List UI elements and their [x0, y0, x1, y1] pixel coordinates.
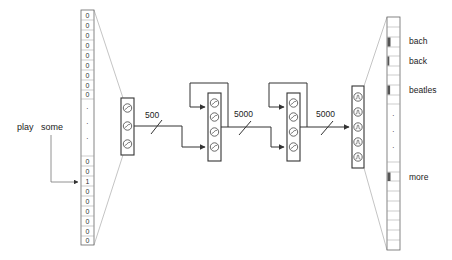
probability-marker-bach: [388, 38, 391, 47]
input-one-hot-vector: 0 0 0 0 0 0 0 0 0 · · · 0 0: [81, 10, 94, 245]
input-cell: 0: [86, 72, 90, 79]
embedding-layer: [121, 98, 134, 155]
projection-line-top: [364, 17, 387, 86]
sigmoid-unit-icon: [289, 128, 297, 136]
input-cell: 0: [86, 168, 90, 175]
probability-marker-beatles: [388, 86, 391, 95]
sigmoid-unit-icon: [289, 99, 297, 107]
sigmoid-unit-icon: [123, 104, 131, 112]
connection-size-label: 5000: [316, 109, 335, 119]
input-cell: 0: [86, 22, 90, 29]
input-cell: 0: [86, 82, 90, 89]
connection-hidden1-hidden2: 5000: [221, 109, 284, 147]
softmax-unit-icon: [354, 123, 362, 131]
input-cell: 0: [86, 228, 90, 235]
sigmoid-unit-icon: [123, 122, 131, 130]
projection-line-bottom: [364, 168, 387, 250]
sigmoid-unit-icon: [289, 143, 297, 151]
output-word-beatles: beatles: [409, 85, 436, 95]
input-ellipsis: · · ·: [86, 104, 89, 143]
hidden-layer-1: [208, 93, 221, 161]
softmax-unit-icon: [354, 153, 362, 161]
output-ellipsis: · · ·: [392, 111, 395, 152]
input-cell: 0: [86, 208, 90, 215]
svg-text:·: ·: [86, 104, 89, 113]
svg-text:·: ·: [392, 127, 395, 136]
sigmoid-unit-icon: [210, 99, 218, 107]
output-word-labels: bach back beatles more: [409, 36, 436, 182]
input-cell: 0: [86, 62, 90, 69]
query-text: play some: [17, 122, 63, 132]
input-cell: 0: [86, 42, 90, 49]
dimension-slash-icon: [151, 120, 162, 134]
sigmoid-unit-icon: [289, 113, 297, 121]
svg-text:·: ·: [86, 119, 89, 128]
input-cell: 0: [86, 188, 90, 195]
sigmoid-unit-icon: [210, 143, 218, 151]
sigmoid-unit-icon: [210, 128, 218, 136]
probability-marker-back: [388, 57, 390, 66]
softmax-unit-icon: [354, 138, 362, 146]
projection-line-bottom: [94, 155, 123, 245]
query-word-some: some: [41, 122, 63, 132]
probability-marker-more: [388, 173, 391, 182]
input-cell: 0: [86, 198, 90, 205]
output-word-more: more: [409, 172, 429, 182]
input-cell: 0: [86, 32, 90, 39]
svg-text:·: ·: [86, 134, 89, 143]
projection-line-top: [94, 10, 123, 98]
dimension-slash-icon: [321, 121, 333, 135]
connection-size-label: 5000: [234, 109, 253, 119]
query-to-input-arrow: [51, 135, 78, 182]
svg-text:·: ·: [392, 143, 395, 152]
output-word-back: back: [409, 56, 428, 66]
input-cell-active: 1: [86, 178, 90, 185]
dimension-slash-icon: [239, 121, 251, 135]
rnn-language-model-diagram: play some 0 0 0 0 0 0 0 0 0 ·: [0, 0, 452, 260]
sigmoid-unit-icon: [210, 113, 218, 121]
input-cell: 0: [86, 91, 90, 98]
input-cell: 0: [86, 12, 90, 19]
output-word-bach: bach: [409, 36, 428, 46]
softmax-unit-icon: [354, 108, 362, 116]
sigmoid-unit-icon: [123, 140, 131, 148]
connection-size-label: 500: [145, 110, 159, 120]
connection-embedding-hidden1: 500: [134, 110, 205, 147]
input-cell: 0: [86, 218, 90, 225]
input-cell: 0: [86, 52, 90, 59]
input-cell: 0: [86, 237, 90, 244]
input-cell: 0: [86, 158, 90, 165]
output-layer: [352, 86, 364, 168]
output-vocabulary-vector: · · ·: [387, 17, 400, 250]
softmax-unit-icon: [354, 93, 362, 101]
svg-text:·: ·: [392, 111, 395, 120]
query-word-play: play: [17, 122, 34, 132]
hidden-layer-2: [287, 93, 300, 161]
